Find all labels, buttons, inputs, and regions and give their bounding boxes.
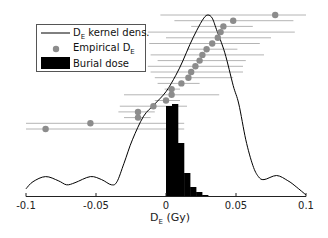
empirical-de-point <box>163 97 169 103</box>
empirical-de-point <box>188 69 194 75</box>
empirical-de-point <box>185 75 191 81</box>
empirical-de-point <box>215 35 221 41</box>
empirical-de-point <box>209 40 215 46</box>
chart-canvas: -0.1-0.0500.050.1 DE (Gy) DE kernel dens… <box>0 0 328 238</box>
x-tick-label: 0 <box>163 200 169 211</box>
x-axis-label: DE (Gy) <box>150 211 190 226</box>
legend-marker-swatch <box>53 46 59 52</box>
legend-bar-swatch <box>41 57 70 69</box>
x-tick-label: -0.1 <box>16 200 36 211</box>
empirical-de-point <box>168 92 174 98</box>
empirical-de-point <box>230 18 236 24</box>
x-tick-label: 0.05 <box>225 200 247 211</box>
empirical-de-point <box>135 114 141 120</box>
x-tick-label: -0.05 <box>83 200 109 211</box>
x-axis: -0.1-0.0500.050.1 <box>16 193 314 211</box>
burial-dose-bar <box>190 187 196 196</box>
burial-dose-bar <box>202 195 208 196</box>
burial-dose-histogram <box>166 104 208 196</box>
empirical-de-point <box>217 29 223 35</box>
empirical-de-point <box>42 126 48 132</box>
legend-label-burial: Burial dose <box>73 58 129 69</box>
empirical-de-point <box>135 109 141 115</box>
burial-dose-bar <box>166 106 172 196</box>
empirical-de-point <box>168 86 174 92</box>
burial-dose-bar <box>184 173 190 196</box>
empirical-de-point <box>178 80 184 86</box>
empirical-de-point <box>220 23 226 29</box>
x-tick-label: 0.1 <box>298 200 314 211</box>
empirical-de-point <box>199 52 205 58</box>
burial-dose-bar <box>178 143 184 196</box>
legend: DE kernel dens. Empirical DE Burial dose <box>37 25 150 72</box>
empirical-de-point <box>192 63 198 69</box>
empirical-de-point <box>150 103 156 109</box>
empirical-de-point <box>272 12 278 18</box>
empirical-de-point <box>203 46 209 52</box>
burial-dose-bar <box>196 192 202 196</box>
empirical-de-point <box>87 120 93 126</box>
burial-dose-bar <box>172 104 178 196</box>
empirical-de-point <box>196 57 202 63</box>
